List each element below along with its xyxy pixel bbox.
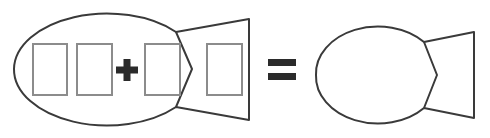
- equals-sign: [268, 59, 296, 80]
- figure-canvas: + = Fish equation: four cards inside a f…: [0, 0, 490, 138]
- equals-bar-bottom: [268, 73, 296, 80]
- card-1: [33, 44, 67, 95]
- right-fish-group: [316, 26, 474, 123]
- fish-equation-figure: + = Fish equation: four cards inside a f…: [0, 0, 490, 138]
- left-fish-group: [14, 14, 249, 126]
- card-3: [145, 44, 180, 95]
- card-4: [207, 44, 242, 95]
- card-2: [77, 44, 112, 95]
- equals-bar-top: [268, 59, 296, 66]
- fish-outline-right: [316, 26, 474, 123]
